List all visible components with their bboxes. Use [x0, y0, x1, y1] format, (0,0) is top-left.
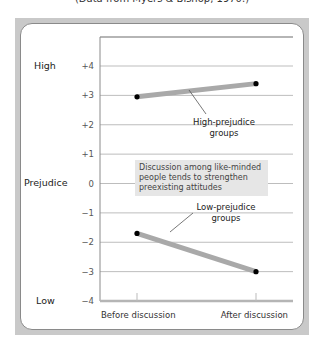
- y-tick-label: +3: [81, 90, 94, 100]
- x-tick-labels: Before discussionAfter discussion: [101, 310, 288, 320]
- data-point: [134, 231, 139, 236]
- y-tick-label: −2: [81, 237, 94, 247]
- low-series-label-line1: Low-prejudice: [196, 202, 255, 212]
- y-tick-label: +1: [81, 149, 94, 159]
- y-tick-label: 0: [89, 179, 94, 189]
- data-point: [134, 94, 139, 99]
- y-tick-label: −1: [81, 208, 94, 218]
- data-point: [253, 81, 258, 86]
- high-series-label-line1: High-prejudice: [193, 117, 255, 127]
- data-point: [253, 269, 258, 274]
- y-tick-labels: +4+3+2+10−1−2−3−4: [81, 61, 94, 306]
- annotation-box: Discussion among like-minded people tend…: [135, 160, 268, 196]
- y-tick-label: −4: [81, 296, 94, 306]
- y-tick-label: +4: [81, 61, 94, 71]
- y-high-label: High: [34, 60, 56, 71]
- low-series-label-line2: groups: [211, 213, 241, 223]
- high-series-label-line2: groups: [209, 128, 239, 138]
- x-tick-label-after: After discussion: [221, 310, 288, 320]
- y-low-label: Low: [36, 295, 55, 306]
- x-tick-label-before: Before discussion: [101, 310, 176, 320]
- y-tick-label: −3: [81, 267, 94, 277]
- y-axis-title: Prejudice: [24, 177, 68, 188]
- y-tick-label: +2: [81, 120, 94, 130]
